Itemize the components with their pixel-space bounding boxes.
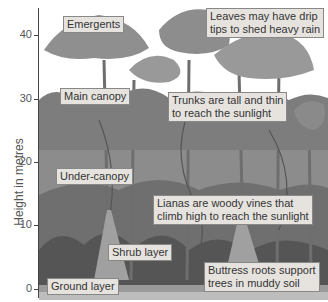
y-axis-tick: [34, 99, 38, 100]
label-main-canopy: Main canopy: [60, 88, 130, 105]
y-axis-tick: [34, 225, 38, 226]
y-axis-tick-label: 20: [16, 155, 32, 167]
label-buttress-roots: Buttress roots support trees in muddy so…: [204, 262, 320, 292]
y-axis-tick-label: 30: [16, 92, 32, 104]
label-drip-tips: Leaves may have drip tips to shed heavy …: [206, 8, 324, 38]
label-emergents: Emergents: [63, 16, 124, 33]
label-trunks: Trunks are tall and thin to reach the su…: [168, 92, 287, 122]
y-axis-tick-label: 0: [16, 282, 32, 294]
label-ground-layer: Ground layer: [47, 278, 119, 295]
y-axis-tick-label: 10: [16, 218, 32, 230]
y-axis-tick: [34, 35, 38, 36]
y-axis-tick: [34, 289, 38, 290]
y-axis-tick-label: 40: [16, 28, 32, 40]
label-lianas: Lianas are woody vines that climb high t…: [153, 195, 313, 225]
forest-illustration: [39, 0, 328, 300]
y-axis-label: Height in metres: [12, 137, 26, 227]
label-shrub-layer: Shrub layer: [108, 244, 172, 261]
label-under-canopy: Under-canopy: [56, 168, 133, 185]
rainforest-layers-diagram: Height in metres 403020100: [0, 0, 328, 302]
y-axis-tick: [34, 162, 38, 163]
